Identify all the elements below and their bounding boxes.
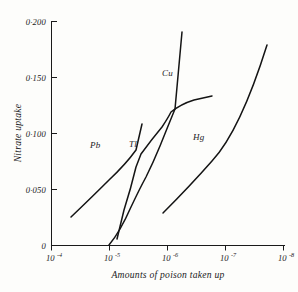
y-tick-label-2: 0·100 <box>26 129 47 139</box>
series-label-cu: Cu <box>162 68 173 78</box>
x-tick-label-0: 10 -4 <box>46 251 62 264</box>
x-tick-mantissa-3: 10 <box>220 253 229 263</box>
x-tick-label-2: 10 -6 <box>162 251 179 264</box>
x-tick-label-4: 10 -8 <box>278 251 295 264</box>
x-tick-exponent-0: -4 <box>57 251 62 258</box>
series-curve-pb <box>71 124 142 217</box>
x-tick-mantissa-0: 10 <box>46 253 55 263</box>
x-tick-exponent-2: -6 <box>173 251 179 258</box>
series-labels: Pb Tl Cu Hg <box>89 68 205 150</box>
chart-figure: 0·200 0·150 0·100 0·050 0 10 -4 10 -5 10… <box>0 0 298 292</box>
series-label-hg: Hg <box>192 132 205 142</box>
x-tick-exponent-4: -8 <box>289 251 295 258</box>
x-axis-title: Amounts of poison taken up <box>110 269 224 280</box>
x-tick-mantissa-2: 10 <box>162 253 171 263</box>
y-tick-marks <box>52 22 58 190</box>
x-tick-marks <box>52 246 284 251</box>
series-curve-cu <box>109 32 182 245</box>
y-tick-label-1: 0·050 <box>26 185 47 195</box>
series-label-pb: Pb <box>89 140 101 150</box>
x-tick-exponent-3: -7 <box>231 251 237 258</box>
x-tick-label-3: 10 -7 <box>220 251 237 264</box>
x-tick-labels: 10 -4 10 -5 10 -6 10 -7 10 -8 <box>46 251 295 264</box>
series-label-tl: Tl <box>129 139 137 149</box>
y-axis-title: Nitrate uptake <box>12 103 23 163</box>
series-curve-tl <box>117 96 212 239</box>
axis-group <box>52 22 285 246</box>
y-tick-labels: 0·200 0·150 0·100 0·050 0 <box>26 17 47 251</box>
x-tick-mantissa-4: 10 <box>278 253 287 263</box>
nitrate-uptake-chart: 0·200 0·150 0·100 0·050 0 10 -4 10 -5 10… <box>0 0 298 292</box>
series-curves <box>71 32 267 245</box>
y-tick-label-3: 0·150 <box>26 73 47 83</box>
x-tick-exponent-1: -5 <box>115 251 120 258</box>
y-tick-label-0: 0 <box>42 241 47 251</box>
x-tick-label-1: 10 -5 <box>104 251 120 264</box>
y-tick-label-4: 0·200 <box>26 17 47 27</box>
x-tick-mantissa-1: 10 <box>104 253 113 263</box>
